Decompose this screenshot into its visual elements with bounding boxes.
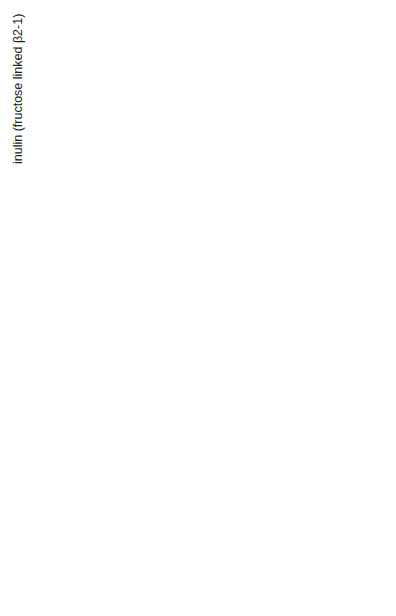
inulin-label: inulin (fructose linked β2-1) xyxy=(11,14,25,164)
polysaccharide-figure: inulin (fructose linked β2-1) xyxy=(0,0,396,616)
inulin-panel: inulin (fructose linked β2-1) xyxy=(11,14,25,164)
